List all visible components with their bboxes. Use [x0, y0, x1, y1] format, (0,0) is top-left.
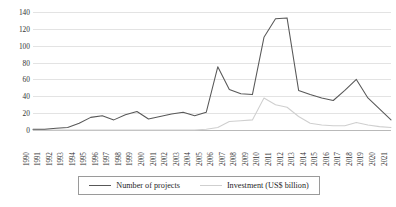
legend-label-investment: Investment (US$ billion) [227, 181, 309, 190]
y-tick-label-40: 40 [23, 92, 30, 101]
legend-item-investment: Investment (US$ billion) [200, 181, 309, 190]
series-line-investment [33, 98, 391, 130]
x-tick-label-2019: 2019 [357, 152, 365, 166]
x-tick-label-1990: 1990 [23, 152, 31, 166]
x-tick-label-1998: 1998 [115, 152, 123, 166]
plot-area [33, 12, 391, 130]
x-tick-label-2010: 2010 [253, 152, 261, 166]
x-tick-label-1991: 1991 [34, 152, 42, 166]
x-tick-label-1996: 1996 [92, 152, 100, 166]
x-tick-label-2021: 2021 [381, 152, 389, 166]
x-tick-label-2009: 2009 [242, 152, 250, 166]
x-tick-label-2011: 2011 [265, 153, 273, 166]
x-tick-label-2008: 2008 [230, 152, 238, 166]
y-tick-label-120: 120 [19, 24, 30, 33]
x-tick-label-1992: 1992 [46, 152, 54, 166]
x-tick-label-2013: 2013 [288, 152, 296, 166]
x-tick-label-2020: 2020 [369, 152, 377, 166]
x-tick-label-1994: 1994 [69, 152, 77, 166]
x-axis-labels: 1990199119921993199419951996199719981999… [33, 132, 391, 166]
x-tick-label-2005: 2005 [196, 152, 204, 166]
chart-legend: Number of projects Investment (US$ billi… [78, 176, 320, 195]
x-tick-label-2016: 2016 [323, 152, 331, 166]
x-tick-label-2002: 2002 [161, 152, 169, 166]
x-tick-label-2004: 2004 [184, 152, 192, 166]
x-tick-label-2017: 2017 [334, 152, 342, 166]
x-tick-label-1995: 1995 [80, 152, 88, 166]
y-tick-label-20: 20 [23, 109, 30, 118]
y-tick-label-60: 60 [23, 75, 30, 84]
x-tick-label-2000: 2000 [138, 152, 146, 166]
x-tick-label-2006: 2006 [207, 152, 215, 166]
x-tick-label-2007: 2007 [219, 152, 227, 166]
legend-swatch-investment [200, 185, 222, 186]
legend-item-number-of-projects: Number of projects [89, 181, 180, 190]
series-line-number-of-projects [33, 18, 391, 129]
x-tick-label-2003: 2003 [173, 152, 181, 166]
x-tick-label-1997: 1997 [103, 152, 111, 166]
y-tick-label-100: 100 [19, 41, 30, 50]
y-tick-label-80: 80 [23, 58, 30, 67]
x-tick-label-1993: 1993 [57, 152, 65, 166]
legend-label-number-of-projects: Number of projects [116, 181, 180, 190]
x-tick-label-2012: 2012 [277, 152, 285, 166]
y-axis-labels: 020406080100120140 [0, 12, 30, 130]
line-chart: 020406080100120140 199019911992199319941… [0, 0, 396, 207]
x-tick-label-2018: 2018 [346, 152, 354, 166]
x-tick-label-2015: 2015 [311, 152, 319, 166]
x-tick-label-2014: 2014 [300, 152, 308, 166]
y-tick-label-0: 0 [26, 126, 30, 135]
x-tick-label-2001: 2001 [150, 152, 158, 166]
y-tick-label-140: 140 [19, 8, 30, 17]
x-tick-label-1999: 1999 [126, 152, 134, 166]
legend-swatch-number-of-projects [89, 185, 111, 186]
series-container [33, 12, 391, 130]
